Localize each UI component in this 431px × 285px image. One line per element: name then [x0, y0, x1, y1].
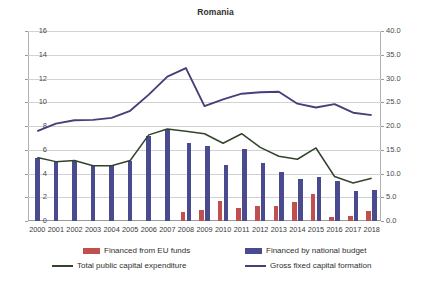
legend-item-eu-funds: Financed from EU funds: [83, 246, 190, 255]
legend-swatch-line-total: [52, 265, 73, 267]
x-axis-label: 2009: [195, 223, 214, 237]
legend-label-total-public: Total public capital expenditure: [77, 261, 186, 270]
right-axis-tick-label: 20.0: [386, 122, 420, 130]
legend-swatch-bar-eu: [83, 248, 100, 254]
right-axis-tick-mark: [381, 150, 384, 151]
right-axis-tick-label: 15.0: [386, 146, 420, 154]
right-axis-tick-label: 30.0: [386, 75, 420, 83]
legend-label-eu-funds: Financed from EU funds: [104, 246, 190, 255]
x-axis-label: 2013: [270, 223, 289, 237]
right-axis-tick-label: 10.0: [386, 170, 420, 178]
x-axis-label: 2010: [214, 223, 233, 237]
right-axis-tick-label: 35.0: [386, 51, 420, 59]
left-axis-tick-mark: [25, 221, 28, 222]
x-axis-label: 2017: [344, 223, 363, 237]
x-axis-label: 2012: [251, 223, 270, 237]
x-axis-label: 2004: [102, 223, 121, 237]
chart-legend: Financed from EU funds Financed by natio…: [0, 246, 431, 276]
legend-row-2: Total public capital expenditure Gross f…: [0, 261, 431, 276]
x-axis-labels: 2000200120022003200420052006200720082009…: [28, 223, 381, 237]
legend-swatch-bar-national: [245, 248, 262, 254]
chart-title: Romania: [0, 7, 431, 17]
legend-item-gfcf: Gross fixed capital formation: [245, 261, 371, 270]
line-total-public-capital-expenditure: [37, 129, 371, 183]
line-gross-fixed-capital-formation: [37, 68, 371, 131]
x-axis-label: 2014: [288, 223, 307, 237]
right-axis-tick-mark: [381, 31, 384, 32]
right-axis-tick-mark: [381, 102, 384, 103]
x-axis-label: 2016: [325, 223, 344, 237]
legend-item-total-public: Total public capital expenditure: [52, 261, 186, 270]
right-axis-tick-label: 5.0: [386, 193, 420, 201]
legend-swatch-line-gfcf: [245, 265, 266, 267]
x-axis-label: 2006: [139, 223, 158, 237]
legend-label-gfcf: Gross fixed capital formation: [270, 261, 371, 270]
x-axis-label: 2008: [177, 223, 196, 237]
legend-row-1: Financed from EU funds Financed by natio…: [0, 246, 431, 261]
legend-label-national-budget: Financed by national budget: [266, 246, 367, 255]
x-axis-label: 2002: [65, 223, 84, 237]
x-axis-label: 2007: [158, 223, 177, 237]
legend-item-national-budget: Financed by national budget: [245, 246, 367, 255]
chart-container: Romania 0246810121416 0.05.010.015.020.0…: [0, 0, 431, 285]
right-axis-tick-mark: [381, 197, 384, 198]
right-axis-tick-mark: [381, 55, 384, 56]
right-axis-tick-label: 25.0: [386, 98, 420, 106]
x-axis-label: 2018: [362, 223, 381, 237]
right-axis-tick-mark: [381, 221, 384, 222]
lines-layer: [28, 31, 381, 221]
x-axis-label: 2005: [121, 223, 140, 237]
right-axis-tick-mark: [381, 126, 384, 127]
right-axis-tick-mark: [381, 79, 384, 80]
x-axis-label: 2015: [307, 223, 326, 237]
right-axis-tick-label: 0.0: [386, 217, 420, 225]
x-axis-label: 2011: [232, 223, 251, 237]
right-axis-tick-mark: [381, 174, 384, 175]
x-axis-label: 2001: [47, 223, 66, 237]
right-axis-tick-label: 40.0: [386, 27, 420, 35]
x-axis-label: 2003: [84, 223, 103, 237]
x-axis-label: 2000: [28, 223, 47, 237]
